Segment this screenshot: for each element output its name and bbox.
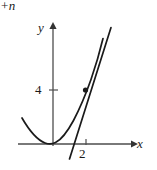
tangent-line-figure: +n y x 4 2 [0, 0, 157, 170]
y-tick-label-4: 4 [35, 82, 42, 98]
x-axis-label: x [137, 136, 143, 152]
y-axis-label: y [38, 20, 44, 36]
y-axis-arrowhead-icon [49, 22, 56, 29]
graph-canvas [0, 0, 157, 170]
tangent-point-marker [83, 87, 88, 92]
tangent-line [70, 28, 112, 160]
x-tick-label-2: 2 [79, 146, 86, 162]
